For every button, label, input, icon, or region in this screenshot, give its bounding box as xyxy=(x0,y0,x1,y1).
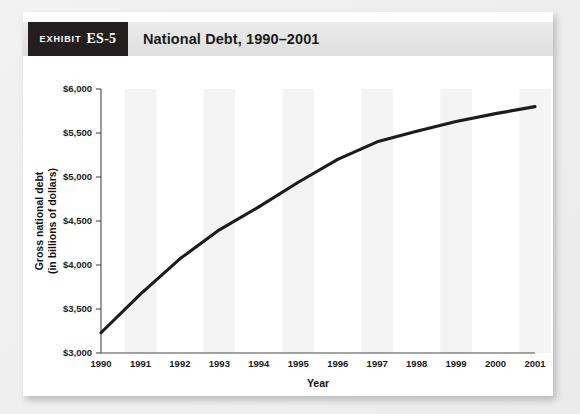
chart-band xyxy=(440,89,472,353)
exhibit-card: Exhibit ES-5 National Debt, 1990–2001 $3… xyxy=(23,12,553,396)
chart-band xyxy=(204,89,236,353)
x-tick-label: 2001 xyxy=(524,358,546,369)
exhibit-kicker-label: Exhibit xyxy=(40,34,82,44)
x-tick-label: 1993 xyxy=(209,358,230,369)
x-axis-tick-labels: 1990199119921993199419951996199719981999… xyxy=(90,358,546,369)
x-tick-label: 1998 xyxy=(406,358,427,369)
y-axis-tick-labels: $3,000$3,500$4,000$4,500$5,000$5,500$6,0… xyxy=(63,83,92,358)
x-tick-label: 1997 xyxy=(367,358,388,369)
chart-band xyxy=(282,89,314,353)
page-background: Exhibit ES-5 National Debt, 1990–2001 $3… xyxy=(0,0,580,414)
y-tick-label: $3,500 xyxy=(63,303,92,314)
y-axis-title-line2: (in billions of dollars) xyxy=(46,168,58,274)
y-tick-label: $5,500 xyxy=(63,127,92,138)
x-axis-title: Year xyxy=(307,377,329,389)
chart-band xyxy=(125,89,157,353)
y-tick-label: $5,000 xyxy=(63,171,92,182)
chart-vertical-bands xyxy=(125,89,551,353)
exhibit-title: National Debt, 1990–2001 xyxy=(143,22,320,56)
y-tick-label: $4,500 xyxy=(63,215,92,226)
line-chart: $3,000$3,500$4,000$4,500$5,000$5,500$6,0… xyxy=(23,56,553,396)
chart-plot-container: $3,000$3,500$4,000$4,500$5,000$5,500$6,0… xyxy=(23,56,553,396)
chart-axis-ticks xyxy=(96,89,101,353)
x-tick-label: 2000 xyxy=(485,358,506,369)
chart-band xyxy=(519,89,551,353)
x-tick-label: 1995 xyxy=(288,358,310,369)
chart-band xyxy=(361,89,393,353)
x-tick-label: 1999 xyxy=(446,358,467,369)
x-tick-label: 1991 xyxy=(130,358,152,369)
y-tick-label: $6,000 xyxy=(63,83,92,94)
x-tick-label: 1990 xyxy=(90,358,111,369)
exhibit-badge: Exhibit ES-5 xyxy=(28,22,128,56)
x-tick-label: 1992 xyxy=(169,358,190,369)
x-tick-label: 1994 xyxy=(248,358,270,369)
y-axis-title-line1: Gross national debt xyxy=(33,171,45,270)
y-tick-label: $3,000 xyxy=(63,347,92,358)
y-tick-label: $4,000 xyxy=(63,259,92,270)
x-tick-label: 1996 xyxy=(327,358,348,369)
exhibit-number-label: ES-5 xyxy=(86,31,116,47)
